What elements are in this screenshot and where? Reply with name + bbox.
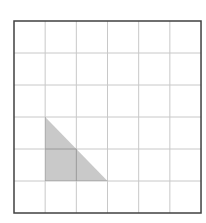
grid-lines: [14, 21, 201, 213]
grid-diagram: [0, 0, 206, 223]
